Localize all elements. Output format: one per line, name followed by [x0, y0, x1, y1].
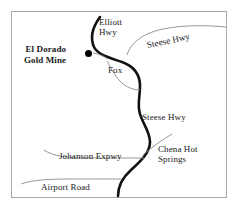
label-steese-hwy-middle: Steese Hwy: [142, 112, 186, 122]
label-fox: Fox: [108, 65, 122, 75]
map-figure: El Dorado Gold Mine Elliott Hwy Steese H…: [0, 0, 239, 210]
road-main-steese-highway: [92, 17, 150, 196]
el-dorado-gold-mine-marker: [85, 50, 92, 57]
label-el-dorado-gold-mine: El Dorado Gold Mine: [24, 44, 66, 65]
label-chena-hot-springs: Chena Hot Springs: [158, 144, 198, 164]
label-airport-road: Airport Road: [41, 182, 90, 192]
label-johanson-expwy: Johanson Expwy: [59, 151, 122, 161]
label-elliott-hwy: Elliott Hwy: [99, 17, 122, 37]
